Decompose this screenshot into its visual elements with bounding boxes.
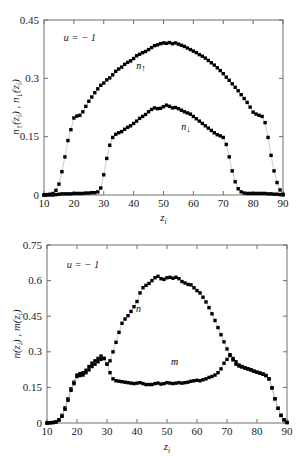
series-line-n_up (44, 43, 283, 195)
x-tick-label: 10 (39, 197, 51, 209)
x-tick-label: 60 (188, 197, 200, 209)
y-tick-label: 0.3 (25, 72, 39, 84)
series-line-n_down (44, 105, 283, 195)
x-tick-label: 30 (102, 425, 114, 437)
series-line-n_total (47, 276, 287, 423)
series-markers-n_up (42, 41, 284, 197)
n-up-curve-label: n↑ (136, 60, 146, 73)
y-tick-label: 0.75 (23, 239, 43, 251)
x-tick-label: 80 (252, 425, 264, 437)
x-axis-title: zi (159, 211, 166, 226)
density-profile-plot-up-down: 10203040506070809000.150.30.45zin↑(zi) ,… (0, 0, 302, 228)
y-tick-label: 0.6 (28, 274, 42, 286)
series-markers-m_magnetization (45, 354, 288, 425)
n-down-curve-label: n↓ (181, 121, 191, 134)
x-tick-label: 50 (158, 197, 170, 209)
y-tick-label: 0.45 (20, 14, 40, 26)
n-curve-label: n (136, 303, 141, 314)
y-tick-label: 0.45 (23, 310, 43, 322)
partial-caption-text (0, 447, 302, 457)
x-tick-label: 40 (132, 425, 144, 437)
x-tick-label: 20 (72, 425, 84, 437)
chart-panel-bottom: 10203040506070809000.150.30.450.60.75zin… (0, 228, 302, 457)
x-tick-label: 90 (282, 425, 294, 437)
x-tick-label: 20 (68, 197, 80, 209)
density-magnetization-plot: 10203040506070809000.150.30.450.60.75zin… (0, 228, 302, 457)
x-tick-label: 60 (192, 425, 204, 437)
y-tick-label: 0.15 (23, 381, 43, 393)
y-tick-label: 0.3 (28, 345, 42, 357)
x-tick-label: 30 (98, 197, 110, 209)
y-tick-label: 0 (34, 189, 40, 201)
x-tick-label: 10 (42, 425, 54, 437)
figure-container: 10203040506070809000.150.30.45zin↑(zi) ,… (0, 0, 302, 457)
u-parameter-annotation: u = − 1 (64, 32, 97, 43)
series-line-m_magnetization (47, 356, 287, 423)
series-markers-n_down (42, 103, 284, 196)
y-tick-label: 0.15 (20, 130, 40, 142)
x-tick-label: 70 (218, 197, 230, 209)
x-tick-label: 70 (222, 425, 234, 437)
y-axis-title: n↑(zi) , n↓(zi) (9, 79, 24, 135)
u-parameter-annotation: u = − 1 (67, 259, 100, 270)
x-tick-label: 80 (248, 197, 260, 209)
m-curve-label: m (171, 356, 178, 367)
chart-panel-top: 10203040506070809000.150.30.45zin↑(zi) ,… (0, 0, 302, 228)
series-markers-n_total (45, 275, 288, 425)
x-tick-label: 40 (128, 197, 140, 209)
x-tick-label: 90 (278, 197, 290, 209)
y-tick-label: 0 (37, 417, 43, 429)
x-tick-label: 50 (162, 425, 174, 437)
